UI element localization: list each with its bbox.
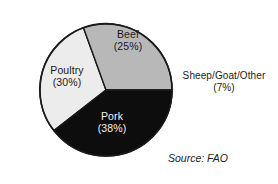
pie-label-sheep-goat-other-name: Sheep/Goat/Other (171, 70, 277, 82)
pie-label-poultry-percent: (30%) (34, 76, 100, 88)
pie-label-beef-percent: (25%) (98, 40, 158, 52)
pie-label-poultry: Poultry (30%) (34, 64, 100, 88)
pie-label-pork-percent: (38%) (84, 122, 140, 134)
pie-label-beef: Beef (25%) (98, 28, 158, 52)
source-note: Source: FAO (168, 152, 228, 164)
pie-label-sheep-goat-other-percent: (7%) (171, 82, 277, 94)
pie-chart-figure: Beef (25%) Sheep/Goat/Other (7%) Pork (3… (0, 0, 278, 184)
pie-label-pork: Pork (38%) (84, 110, 140, 134)
pie-label-poultry-name: Poultry (34, 64, 100, 76)
pie-label-pork-name: Pork (84, 110, 140, 122)
pie-label-sheep-goat-other: Sheep/Goat/Other (7%) (171, 70, 277, 93)
pie-label-beef-name: Beef (98, 28, 158, 40)
